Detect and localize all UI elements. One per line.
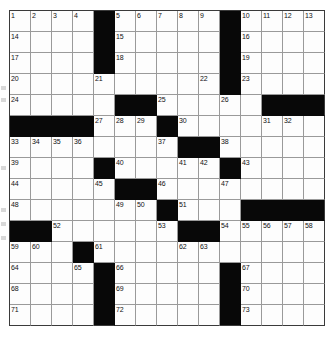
grid-cell[interactable] — [73, 284, 94, 305]
grid-cell[interactable]: 69 — [115, 284, 136, 305]
grid-cell[interactable] — [157, 74, 178, 95]
grid-cell[interactable] — [31, 53, 52, 74]
grid-cell[interactable] — [31, 32, 52, 53]
grid-cell[interactable] — [115, 137, 136, 158]
grid-cell[interactable] — [157, 32, 178, 53]
grid-cell[interactable]: 45 — [94, 179, 115, 200]
grid-cell[interactable] — [178, 179, 199, 200]
grid-cell[interactable]: 58 — [304, 221, 325, 242]
grid-cell[interactable] — [304, 137, 325, 158]
grid-cell[interactable] — [304, 74, 325, 95]
grid-cell[interactable]: 72 — [115, 305, 136, 326]
grid-cell[interactable]: 15 — [115, 32, 136, 53]
grid-cell[interactable]: 63 — [199, 242, 220, 263]
grid-cell[interactable] — [283, 284, 304, 305]
grid-cell[interactable] — [115, 74, 136, 95]
grid-cell[interactable] — [241, 242, 262, 263]
grid-cell[interactable]: 38 — [220, 137, 241, 158]
grid-cell[interactable] — [73, 53, 94, 74]
grid-cell[interactable] — [178, 53, 199, 74]
grid-cell[interactable] — [199, 53, 220, 74]
grid-cell[interactable] — [178, 284, 199, 305]
grid-cell[interactable] — [73, 32, 94, 53]
grid-cell[interactable] — [94, 95, 115, 116]
crossword-grid[interactable]: 1234567891011121314151617181920212223242… — [9, 10, 325, 326]
grid-cell[interactable] — [31, 263, 52, 284]
grid-cell[interactable]: 41 — [178, 158, 199, 179]
grid-cell[interactable]: 25 — [157, 95, 178, 116]
grid-cell[interactable] — [262, 263, 283, 284]
grid-cell[interactable] — [178, 32, 199, 53]
grid-cell[interactable] — [178, 263, 199, 284]
grid-cell[interactable]: 70 — [241, 284, 262, 305]
grid-cell[interactable] — [115, 221, 136, 242]
grid-cell[interactable] — [136, 74, 157, 95]
grid-cell[interactable] — [136, 263, 157, 284]
grid-cell[interactable] — [136, 53, 157, 74]
grid-cell[interactable] — [220, 200, 241, 221]
grid-cell[interactable]: 54 — [220, 221, 241, 242]
grid-cell[interactable]: 3 — [52, 11, 73, 32]
grid-cell[interactable] — [262, 158, 283, 179]
grid-cell[interactable] — [262, 242, 283, 263]
grid-cell[interactable]: 7 — [157, 11, 178, 32]
grid-cell[interactable]: 8 — [178, 11, 199, 32]
grid-cell[interactable]: 48 — [10, 200, 31, 221]
grid-cell[interactable] — [304, 284, 325, 305]
grid-cell[interactable] — [283, 137, 304, 158]
grid-cell[interactable]: 43 — [241, 158, 262, 179]
grid-cell[interactable] — [31, 305, 52, 326]
grid-cell[interactable] — [115, 242, 136, 263]
grid-cell[interactable] — [199, 263, 220, 284]
grid-cell[interactable] — [157, 53, 178, 74]
grid-cell[interactable] — [94, 200, 115, 221]
grid-cell[interactable] — [199, 305, 220, 326]
grid-cell[interactable]: 68 — [10, 284, 31, 305]
grid-cell[interactable] — [73, 158, 94, 179]
grid-cell[interactable] — [52, 53, 73, 74]
grid-cell[interactable]: 34 — [31, 137, 52, 158]
grid-cell[interactable] — [283, 158, 304, 179]
grid-cell[interactable]: 4 — [73, 11, 94, 32]
grid-cell[interactable] — [31, 74, 52, 95]
grid-cell[interactable]: 36 — [73, 137, 94, 158]
grid-cell[interactable]: 53 — [157, 221, 178, 242]
grid-cell[interactable]: 13 — [304, 11, 325, 32]
grid-cell[interactable] — [199, 95, 220, 116]
grid-cell[interactable]: 47 — [220, 179, 241, 200]
grid-cell[interactable] — [262, 305, 283, 326]
grid-cell[interactable]: 39 — [10, 158, 31, 179]
grid-cell[interactable] — [136, 284, 157, 305]
grid-cell[interactable] — [262, 284, 283, 305]
grid-cell[interactable]: 29 — [136, 116, 157, 137]
grid-cell[interactable] — [220, 116, 241, 137]
grid-cell[interactable]: 64 — [10, 263, 31, 284]
grid-cell[interactable] — [241, 179, 262, 200]
grid-cell[interactable] — [31, 95, 52, 116]
grid-cell[interactable] — [304, 32, 325, 53]
grid-cell[interactable]: 23 — [241, 74, 262, 95]
grid-cell[interactable] — [178, 95, 199, 116]
grid-cell[interactable] — [157, 263, 178, 284]
grid-cell[interactable] — [52, 158, 73, 179]
grid-cell[interactable]: 35 — [52, 137, 73, 158]
grid-cell[interactable] — [283, 242, 304, 263]
grid-cell[interactable] — [220, 242, 241, 263]
grid-cell[interactable] — [52, 284, 73, 305]
grid-cell[interactable] — [52, 200, 73, 221]
grid-cell[interactable] — [283, 53, 304, 74]
grid-cell[interactable] — [241, 116, 262, 137]
grid-cell[interactable] — [31, 284, 52, 305]
grid-cell[interactable] — [199, 200, 220, 221]
grid-cell[interactable]: 46 — [157, 179, 178, 200]
grid-cell[interactable] — [262, 53, 283, 74]
grid-cell[interactable]: 30 — [178, 116, 199, 137]
grid-cell[interactable] — [136, 242, 157, 263]
grid-cell[interactable] — [31, 179, 52, 200]
grid-cell[interactable]: 31 — [262, 116, 283, 137]
grid-cell[interactable] — [157, 284, 178, 305]
grid-cell[interactable]: 17 — [10, 53, 31, 74]
grid-cell[interactable] — [136, 158, 157, 179]
grid-cell[interactable] — [157, 158, 178, 179]
grid-cell[interactable]: 73 — [241, 305, 262, 326]
